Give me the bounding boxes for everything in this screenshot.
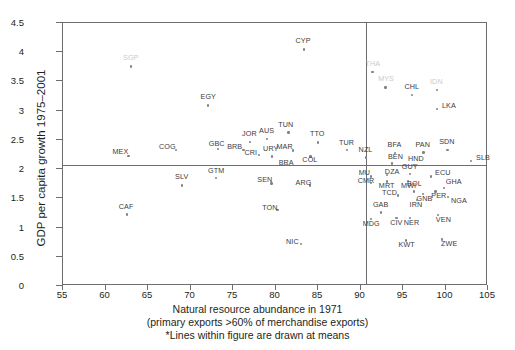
data-point-label: CHL: [405, 82, 420, 91]
data-point: [408, 172, 412, 176]
data-point: [214, 176, 218, 180]
data-point-label: CMR: [358, 176, 375, 185]
data-point-label: GTM: [208, 166, 224, 175]
data-point-label: BRA: [279, 158, 294, 167]
data-point-label: NER: [404, 218, 419, 227]
x-tick-label: 55: [42, 289, 82, 300]
data-point-label: PER: [431, 191, 446, 200]
data-point: [316, 140, 320, 144]
data-point-label: COG: [159, 142, 176, 151]
data-point-label: GHA: [446, 177, 462, 186]
data-point-label: KWT: [399, 240, 415, 249]
data-point-label: GAB: [373, 200, 388, 209]
x-tick-mark: [402, 285, 403, 290]
data-point-label: VEN: [436, 215, 451, 224]
data-point-label: MAR: [277, 142, 293, 151]
data-point-label: NGA: [451, 196, 467, 205]
data-point: [469, 159, 473, 163]
data-point-label: SLV: [175, 172, 188, 181]
data-point-label: CYP: [296, 36, 311, 45]
x-tick-mark: [147, 285, 148, 290]
data-point-label: MDG: [363, 219, 380, 228]
x-tick-label: 85: [297, 289, 337, 300]
x-tick-mark: [487, 285, 488, 290]
data-point: [180, 183, 184, 187]
x-tick-label: 100: [425, 289, 465, 300]
data-point: [446, 195, 450, 199]
scatter-figure: GDP per capita growth 1975–2001 00.511.5…: [0, 0, 515, 350]
data-point: [286, 130, 290, 134]
data-point: [412, 189, 416, 193]
x-tick-label: 70: [170, 289, 210, 300]
data-point-label: MYS: [378, 74, 394, 83]
data-point-label: BRB: [227, 142, 242, 151]
y-tick-label: 3: [0, 104, 24, 115]
data-point-label: TUR: [339, 138, 354, 147]
data-point: [125, 212, 129, 216]
data-point-label: URY: [263, 144, 278, 153]
y-axis-label: GDP per capita growth 1975–2001: [35, 33, 47, 283]
data-point: [129, 64, 133, 68]
x-tick-label: 105: [467, 289, 507, 300]
data-point-label: MEX: [112, 147, 128, 156]
horizontal-mean-line: [63, 165, 486, 166]
data-point: [445, 148, 449, 152]
data-point-label: SEN: [257, 175, 272, 184]
data-point: [270, 154, 274, 158]
x-tick-mark: [190, 285, 191, 290]
data-point-label: EGY: [201, 92, 216, 101]
y-tick-label: 1.5: [0, 192, 24, 203]
data-point: [206, 103, 210, 107]
data-point-label: NZL: [359, 145, 373, 154]
data-point-label: THA: [365, 59, 380, 68]
x-tick-mark: [360, 285, 361, 290]
data-point-label: SLB: [476, 153, 490, 162]
data-point: [302, 47, 306, 51]
x-tick-mark: [62, 285, 63, 290]
x-axis-label: Natural resource abundance in 1971: [0, 303, 515, 316]
data-point-label: TCD: [382, 188, 397, 197]
x-tick-mark: [275, 285, 276, 290]
data-point: [383, 85, 387, 89]
data-point: [370, 70, 374, 74]
data-point-label: TTO: [310, 129, 325, 138]
data-point-label: PAN: [415, 140, 430, 149]
data-point-label: ARG: [296, 178, 312, 187]
data-point-label: BFA: [388, 140, 402, 149]
data-point-label: CRI: [245, 148, 258, 157]
data-point-label: BEN: [388, 152, 403, 161]
x-tick-mark: [317, 285, 318, 290]
x-tick-mark: [445, 285, 446, 290]
x-axis-sublabel: (primary exports >60% of merchandise exp…: [0, 316, 515, 329]
data-point: [379, 210, 383, 214]
y-tick-label: 2: [0, 163, 24, 174]
data-point: [435, 107, 439, 111]
y-tick-label: 0: [0, 280, 24, 291]
data-point-label: TON: [262, 203, 277, 212]
data-point-label: IDN: [430, 77, 443, 86]
data-point: [442, 186, 446, 190]
data-point-label: LKA: [442, 101, 456, 110]
y-tick-label: 4: [0, 46, 24, 57]
y-tick-label: 2.5: [0, 133, 24, 144]
x-tick-label: 90: [340, 289, 380, 300]
x-tick-label: 75: [212, 289, 252, 300]
y-tick-label: 4.5: [0, 17, 24, 28]
data-point-label: DZA: [385, 167, 400, 176]
data-point-label: IRN: [410, 200, 423, 209]
data-point: [265, 137, 269, 141]
data-point-label: ZWE: [441, 239, 457, 248]
data-point-label: SGP: [123, 53, 138, 62]
plot-area: SGPCYPTHAMYSIDNCHLEGYLKATUNAUSJORTTOMEXC…: [62, 22, 487, 285]
data-point-label: TUN: [278, 120, 293, 129]
x-tick-mark: [105, 285, 106, 290]
data-point-label: CIV: [390, 218, 402, 227]
data-point: [435, 88, 439, 92]
data-point-label: COL: [302, 155, 317, 164]
x-axis-caption: Natural resource abundance in 1971 (prim…: [0, 303, 515, 342]
data-point-label: CAF: [119, 202, 134, 211]
data-point-label: JOR: [242, 129, 257, 138]
x-tick-label: 60: [85, 289, 125, 300]
data-point-label: NIC: [286, 237, 299, 246]
x-tick-label: 80: [255, 289, 295, 300]
